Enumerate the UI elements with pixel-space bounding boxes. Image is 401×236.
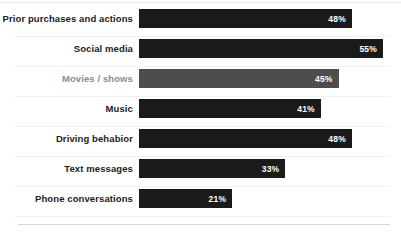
bar-row: Music41% [0,97,401,127]
bar-track: 41% [139,99,393,118]
bar: 48% [139,9,352,28]
bar: 21% [139,189,232,208]
bar-track: 21% [139,189,393,208]
bar-row: Driving behabior48% [0,127,401,157]
bar-track: 33% [139,159,393,178]
bar-category-label: Prior purchases and actions [0,7,133,30]
bar-value-label: 45% [315,74,339,84]
bar-value-label: 33% [262,164,286,174]
bar-row: Movies / shows45% [0,67,401,97]
bar-category-label: Music [0,97,133,120]
bar: 45% [139,69,339,88]
bar-category-label: Text messages [0,157,133,180]
bar-row: Text messages33% [0,157,401,187]
bar: 48% [139,129,352,148]
bar-value-label: 41% [297,104,321,114]
chart-top-divider [0,2,401,3]
chart-plot-area: Prior purchases and actions48%Social med… [0,7,401,217]
bar-value-label: 21% [209,194,233,204]
bar-category-label: Phone conversations [0,187,133,210]
bar: 41% [139,99,321,118]
bar-value-label: 55% [359,44,383,54]
bar: 55% [139,39,383,58]
bar: 33% [139,159,285,178]
bar-track: 55% [139,39,393,58]
horizontal-bar-chart: Prior purchases and actions48%Social med… [0,0,401,236]
bar-row: Phone conversations21% [0,187,401,217]
bar-value-label: 48% [328,14,352,24]
bar-value-label: 48% [328,134,352,144]
bar-row: Social media55% [0,37,401,67]
row-separator [14,216,390,217]
chart-bottom-divider [18,224,390,225]
bar-track: 45% [139,69,393,88]
bar-category-label: Movies / shows [0,67,133,90]
bar-track: 48% [139,9,393,28]
bar-category-label: Social media [0,37,133,60]
bar-row: Prior purchases and actions48% [0,7,401,37]
bar-category-label: Driving behabior [0,127,133,150]
bar-track: 48% [139,129,393,148]
